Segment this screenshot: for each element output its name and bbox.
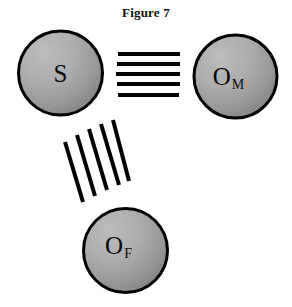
bond-group-s-of xyxy=(65,120,129,202)
node-s: S xyxy=(19,31,103,115)
node-label-s: S xyxy=(54,60,68,87)
node-subscript-o-m: M xyxy=(232,76,245,91)
node-o-m: OM xyxy=(194,35,277,118)
node-subscript-o-f: F xyxy=(124,245,132,260)
node-o-f: OF xyxy=(84,209,168,293)
bond-group-s-om xyxy=(116,54,180,95)
figure-container: Figure 7 SOMOF xyxy=(0,0,292,307)
node-layer: SOMOF xyxy=(19,31,278,293)
figure-diagram-canvas: SOMOF xyxy=(0,0,292,307)
